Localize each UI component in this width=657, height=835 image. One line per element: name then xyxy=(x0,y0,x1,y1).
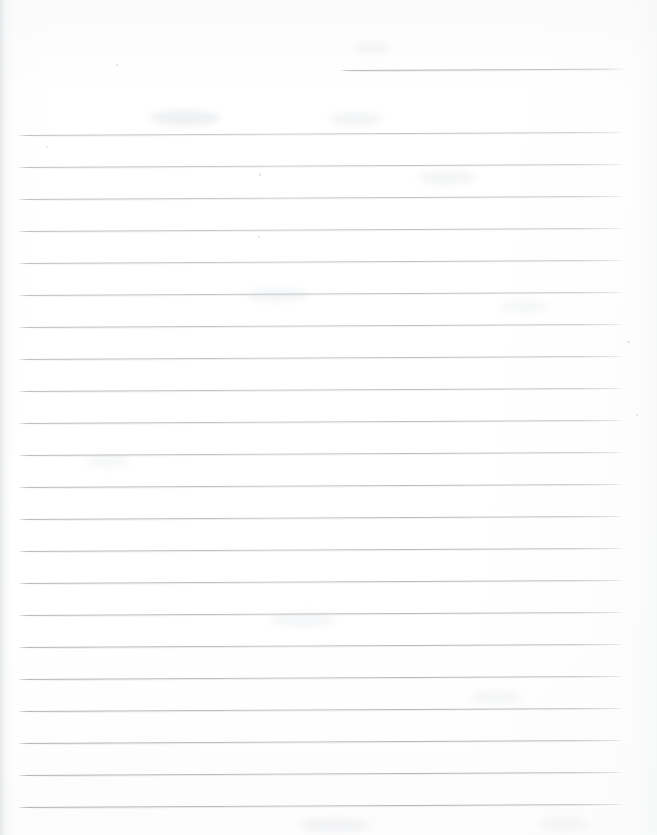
rule-line xyxy=(19,708,622,712)
rule-line xyxy=(19,452,622,456)
rule-line xyxy=(19,164,622,168)
rule-line xyxy=(19,420,622,424)
rule-line-partial xyxy=(340,69,624,71)
rule-line xyxy=(19,356,622,360)
rule-line xyxy=(19,324,622,328)
rule-line xyxy=(19,228,622,232)
rule-line xyxy=(19,548,622,552)
rule-line xyxy=(19,132,622,136)
rule-line xyxy=(19,676,622,680)
rule-line xyxy=(19,740,622,744)
rule-line xyxy=(19,772,622,776)
rule-line xyxy=(19,580,622,584)
rule-line xyxy=(19,260,622,264)
scanned-page xyxy=(0,0,657,835)
rule-line xyxy=(19,292,622,296)
rule-line xyxy=(19,388,622,392)
rule-line xyxy=(19,644,622,648)
rule-line xyxy=(19,612,622,616)
rule-line xyxy=(19,484,622,488)
rule-line xyxy=(19,196,622,200)
ruled-lines-layer xyxy=(0,0,657,835)
rule-line xyxy=(19,516,622,520)
rule-line xyxy=(19,804,622,808)
